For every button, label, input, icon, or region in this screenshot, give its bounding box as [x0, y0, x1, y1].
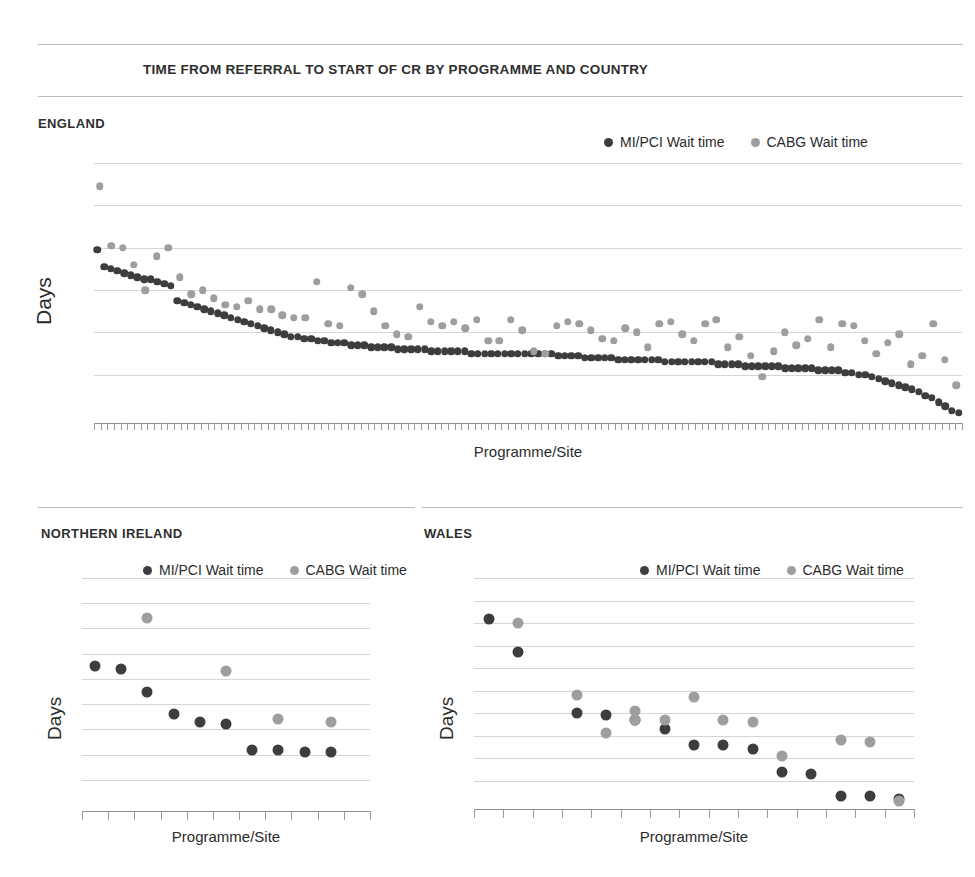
data-point [187, 290, 195, 298]
data-point [610, 337, 618, 345]
x-axis-tick [187, 423, 188, 430]
x-axis-tick [521, 423, 522, 430]
data-point [404, 333, 412, 341]
data-point [601, 728, 612, 739]
data-point [835, 735, 846, 746]
x-axis-tick [782, 423, 783, 430]
data-point [325, 747, 336, 758]
data-point [758, 373, 766, 381]
x-axis-tick [448, 423, 449, 430]
data-point [107, 242, 115, 250]
x-axis-tick [762, 423, 763, 430]
x-axis-tick [702, 423, 703, 430]
data-point [918, 352, 926, 360]
data-point [835, 791, 846, 802]
data-point [747, 352, 755, 360]
data-point [815, 316, 823, 324]
x-axis-tick [562, 809, 563, 818]
data-point [290, 314, 298, 322]
x-axis-tick [601, 423, 602, 430]
x-axis-tick [742, 423, 743, 430]
x-axis-tick [650, 809, 651, 818]
x-axis-tick [101, 423, 102, 430]
x-axis-tick [822, 423, 823, 430]
x-axis-tick [274, 423, 275, 430]
x-axis-tick [708, 423, 709, 430]
legend-label: MI/PCI Wait time [656, 562, 761, 578]
legend-item-mipci: MI/PCI Wait time [640, 562, 761, 578]
data-point [678, 331, 686, 339]
x-axis-tick [214, 423, 215, 430]
data-point [724, 343, 732, 351]
data-point [718, 739, 729, 750]
x-axis-tick [875, 423, 876, 430]
data-point [701, 320, 709, 328]
x-axis-tick [797, 809, 798, 818]
x-axis-tick [318, 811, 319, 820]
x-axis-tick [735, 423, 736, 430]
data-point [176, 274, 184, 282]
x-axis-tick [835, 423, 836, 430]
x-axis-tick [561, 423, 562, 430]
data-point [222, 301, 230, 309]
data-point [153, 252, 161, 260]
y-axis-title: Days [32, 277, 56, 325]
data-point [955, 409, 963, 417]
data-point [299, 747, 310, 758]
x-axis-tick [495, 423, 496, 430]
x-axis-tick [374, 423, 375, 430]
x-axis-tick [915, 423, 916, 430]
x-axis-tick [294, 423, 295, 430]
data-point [865, 791, 876, 802]
x-axis-tick [181, 423, 182, 430]
gridline [82, 704, 370, 705]
data-point [689, 692, 700, 703]
x-axis-tick [935, 423, 936, 430]
data-point [483, 613, 494, 624]
x-axis-tick [895, 423, 896, 430]
gridline [474, 758, 914, 759]
data-point [873, 350, 881, 358]
top-divider-rule [38, 44, 963, 45]
data-point [199, 286, 207, 294]
x-axis-tick [234, 423, 235, 430]
x-axis-tick [808, 423, 809, 430]
x-axis-title: Programme/Site [94, 443, 962, 460]
x-axis-tick [368, 423, 369, 430]
data-point [781, 329, 789, 337]
data-point [302, 314, 310, 322]
x-axis-tick [401, 423, 402, 430]
x-axis-tick [709, 809, 710, 818]
x-axis-tick [962, 423, 963, 430]
x-axis-tick [475, 423, 476, 430]
x-axis-tick [254, 423, 255, 430]
data-point [894, 795, 905, 806]
x-axis-tick [848, 423, 849, 430]
x-axis-tick [615, 423, 616, 430]
gridline [82, 628, 370, 629]
data-point [273, 714, 284, 725]
x-axis-tick [642, 423, 643, 430]
data-point [336, 322, 344, 330]
gridline [82, 805, 370, 806]
x-axis-tick [161, 811, 162, 820]
data-point [439, 322, 447, 330]
x-axis-tick [328, 423, 329, 430]
x-axis-tick [591, 809, 592, 818]
cabg-dot-icon [787, 566, 796, 575]
x-axis-tick [755, 423, 756, 430]
x-axis-line [474, 809, 914, 810]
x-axis-tick [94, 423, 95, 430]
data-point [347, 284, 355, 292]
data-point [381, 322, 389, 330]
data-point [793, 341, 801, 349]
data-point [630, 714, 641, 725]
gridline [474, 736, 914, 737]
data-point [690, 337, 698, 345]
data-point [221, 666, 232, 677]
x-axis-tick [213, 811, 214, 820]
x-axis-tick [314, 423, 315, 430]
panel-title-wales: WALES [424, 526, 472, 541]
x-axis-tick [501, 423, 502, 430]
x-axis-tick [147, 423, 148, 430]
